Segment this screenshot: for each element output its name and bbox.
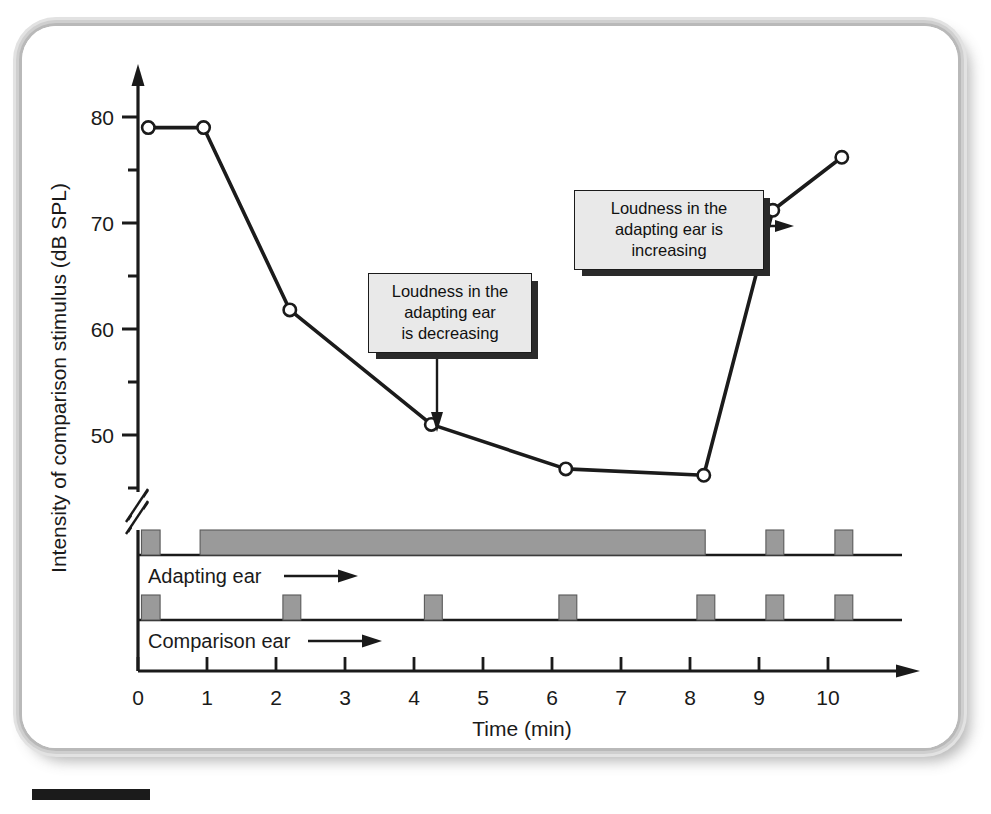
x-tick-label-10: 10 [816, 686, 839, 709]
adapting-ear-arrow-icon [338, 570, 358, 583]
adapting-ear-bars [142, 530, 853, 555]
y-tick-label-80: 80 [91, 106, 114, 129]
leader-arrowhead-increasing [775, 220, 794, 232]
x-tick-label-9: 9 [753, 686, 765, 709]
data-point-6 [767, 204, 779, 216]
y-axis-break-icon [126, 489, 148, 534]
comparison-ear-bar-4 [697, 595, 715, 620]
comparison-ear-bar-5 [766, 595, 784, 620]
comparison-ear-label: Comparison ear [148, 630, 291, 652]
comparison-ear-arrow-icon [362, 635, 382, 648]
comparison-ear-bar-2 [424, 595, 442, 620]
x-tick-label-1: 1 [201, 686, 213, 709]
comparison-ear-bar-6 [835, 595, 853, 620]
data-point-0 [142, 121, 154, 133]
data-point-1 [197, 121, 209, 133]
comparison-ear-bars [142, 595, 853, 620]
comparison-ear-bar-3 [559, 595, 577, 620]
figure-frame: 80 70 60 50 Intensity of comparison stim… [22, 26, 958, 748]
data-point-5 [698, 469, 710, 481]
row-labels: Adapting ear Comparison ear [148, 565, 382, 652]
adapting-ear-bar-2 [766, 530, 784, 555]
x-axis: 0 1 2 3 4 5 6 7 8 9 10 Time (min) [132, 657, 920, 740]
adapting-ear-bar-0 [142, 530, 161, 555]
y-tick-label-50: 50 [91, 424, 114, 447]
x-tick-label-4: 4 [408, 686, 420, 709]
x-ticks [138, 657, 828, 671]
loudness-adaptation-chart: 80 70 60 50 Intensity of comparison stim… [22, 26, 958, 748]
y-axis-arrowhead [132, 64, 145, 86]
annotation-box-decreasing: Loudness in the adapting ear is decreasi… [368, 273, 532, 353]
comparison-ear-bar-0 [142, 595, 161, 620]
adapting-ear-bar-1 [200, 530, 705, 555]
figure-inner-panel: 80 70 60 50 Intensity of comparison stim… [22, 26, 958, 748]
annotation-box-increasing: Loudness in the adapting ear is increasi… [574, 190, 764, 270]
x-tick-label-0: 0 [132, 686, 144, 709]
x-axis-title: Time (min) [472, 717, 572, 740]
x-tick-label-6: 6 [546, 686, 558, 709]
x-tick-label-3: 3 [339, 686, 351, 709]
data-point-4 [560, 463, 572, 475]
x-tick-label-5: 5 [477, 686, 489, 709]
x-tick-label-8: 8 [684, 686, 696, 709]
comparison-ear-bar-1 [283, 595, 301, 620]
adapting-ear-bar-3 [835, 530, 853, 555]
y-axis: 80 70 60 50 Intensity of comparison stim… [47, 64, 148, 671]
adapting-ear-label: Adapting ear [148, 565, 262, 587]
y-tick-label-60: 60 [91, 318, 114, 341]
y-axis-title: Intensity of comparison stimulus (dB SPL… [47, 183, 70, 573]
x-axis-arrowhead [896, 665, 920, 678]
caption-rule [32, 789, 150, 800]
x-tick-label-7: 7 [615, 686, 627, 709]
data-point-2 [284, 304, 296, 316]
x-tick-label-2: 2 [270, 686, 282, 709]
data-point-7 [836, 151, 848, 163]
y-tick-label-70: 70 [91, 212, 114, 235]
